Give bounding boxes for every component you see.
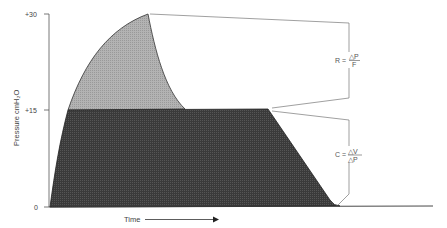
y-tick-label-15: +15	[25, 107, 37, 114]
resistance-formula-numerator: △P	[349, 53, 359, 60]
pressure-time-diagram: +30 +15 0 Pressure cmH₂O R = △P F C = △V…	[0, 0, 447, 228]
compliance-formula-lhs: C =	[335, 151, 346, 158]
y-tick-label-30: +30	[25, 11, 37, 18]
y-tick-label-0: 0	[34, 204, 38, 211]
compliance-formula: C = △V △P	[334, 146, 364, 163]
resistance-formula-lhs: R =	[335, 57, 346, 64]
x-axis-title: Time	[124, 215, 140, 224]
y-axis-title: Pressure cmH₂O	[12, 90, 21, 146]
resistance-bracket	[150, 14, 349, 108]
compliance-formula-denominator: △P	[348, 156, 358, 163]
resistance-formula: R = △P F	[334, 52, 362, 68]
resistance-pressure-region	[68, 14, 185, 110]
compliance-pressure-region	[50, 109, 340, 207]
resistance-formula-denominator: F	[352, 61, 356, 68]
compliance-formula-numerator: △V	[348, 148, 358, 155]
time-arrow-icon	[213, 217, 219, 223]
